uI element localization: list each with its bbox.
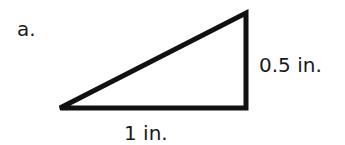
height-label: 0.5 in. xyxy=(259,55,322,75)
triangle-shape xyxy=(60,13,246,108)
base-label: 1 in. xyxy=(124,123,168,143)
